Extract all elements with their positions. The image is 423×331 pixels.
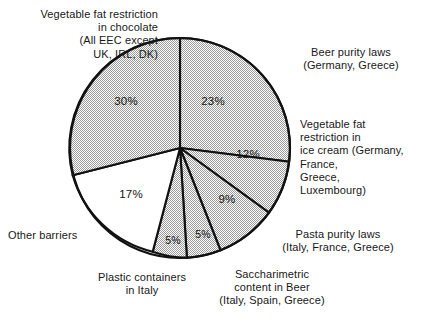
label-saccharimetric: Saccharimetric content in Beer (Italy, S… <box>196 268 348 308</box>
label-other-barriers: Other barriers <box>8 229 118 242</box>
label-chocolate: Vegetable fat restriction in chocolate (… <box>6 8 158 61</box>
pct-label-chocolate: 30% <box>106 95 146 107</box>
pct-label-saccharimetric: 5% <box>190 228 216 240</box>
pct-label-beer-purity: 23% <box>193 95 233 107</box>
label-plastic-containers: Plastic containers in Italy <box>82 271 202 297</box>
pct-label-pasta: 9% <box>212 193 242 205</box>
label-pasta-purity: Pasta purity laws (Italy, France, Greece… <box>258 228 418 254</box>
pct-label-plastic-containers: 5% <box>160 234 186 246</box>
label-ice-cream: Vegetable fat restriction in ice cream (… <box>300 118 423 197</box>
label-beer-purity: Beer purity laws (Germany, Greece) <box>282 46 420 72</box>
pie-chart-figure: 30% 23% 12% 17% 9% 5% 5% Vegetable fat r… <box>0 0 423 331</box>
pct-label-other-barriers: 17% <box>113 188 149 200</box>
pct-label-ice-cream: 12% <box>230 148 266 160</box>
